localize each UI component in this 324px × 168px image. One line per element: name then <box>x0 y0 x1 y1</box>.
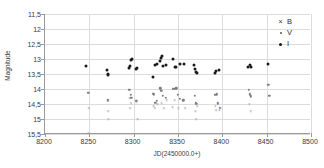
data-point-i <box>136 67 139 70</box>
y-axis-tick <box>41 59 45 60</box>
y-axis-tick-label: 11,5 <box>28 11 41 18</box>
gridline-vertical <box>134 14 135 133</box>
data-point-v <box>214 94 216 96</box>
data-point-b <box>249 109 252 112</box>
plot-area <box>44 14 310 134</box>
x-axis-tick <box>134 133 135 137</box>
data-point-i <box>128 64 131 67</box>
data-point-v <box>156 100 158 102</box>
y-axis-tick <box>41 74 45 75</box>
data-point-v <box>194 94 196 96</box>
legend-marker-dot-small-icon <box>276 28 285 37</box>
legend-label: I <box>285 39 289 48</box>
data-point-v <box>129 94 131 96</box>
x-axis-tick <box>45 133 46 137</box>
x-axis-tick <box>89 133 90 137</box>
legend-marker-dot-icon <box>276 39 285 48</box>
data-point-i <box>218 69 221 72</box>
y-axis-tick <box>41 119 45 120</box>
y-axis-tick-label: 15,5 <box>27 131 41 138</box>
data-point-i <box>248 64 251 67</box>
y-axis-tick-label: 15 <box>33 116 41 123</box>
gridline-vertical <box>89 14 90 133</box>
legend-label: B <box>285 17 292 26</box>
y-axis-tick <box>41 44 45 45</box>
x-axis-tick-label: 8300 <box>125 138 141 145</box>
x-axis-tick <box>311 133 312 137</box>
data-point-b <box>171 106 174 109</box>
data-point-b <box>214 105 217 108</box>
y-axis-tick-label: 14,5 <box>27 101 41 108</box>
data-point-v <box>152 92 154 94</box>
data-point-i <box>247 65 250 68</box>
data-point-b <box>165 99 168 102</box>
data-point-b <box>135 100 138 103</box>
y-axis-tick-label: 14 <box>33 86 41 93</box>
data-point-v <box>107 99 109 101</box>
x-axis-tick-label: 8500 <box>302 138 318 145</box>
data-point-i <box>127 67 130 70</box>
data-point-v <box>249 93 251 95</box>
data-point-v <box>216 93 218 95</box>
data-point-i <box>194 67 197 70</box>
data-point-v <box>182 99 184 101</box>
gridline-vertical <box>267 14 268 133</box>
data-point-i <box>161 64 164 67</box>
data-point-v <box>218 106 220 108</box>
x-axis-tick-label: 8400 <box>214 138 230 145</box>
data-point-i <box>249 66 252 69</box>
x-axis-tick <box>222 133 223 137</box>
gridline-vertical <box>178 14 179 133</box>
legend-label: V <box>285 28 292 37</box>
data-point-i <box>155 63 158 66</box>
x-axis-title: JD(2450000.0+) <box>44 150 310 157</box>
scatter-chart: Magnitude 11,51212,51313,51414,51515,5 8… <box>0 0 324 168</box>
x-axis-tick-label: 8450 <box>258 138 274 145</box>
x-axis-tick-label: 8250 <box>81 138 97 145</box>
x-axis-tick <box>178 133 179 137</box>
data-point-i <box>105 68 108 71</box>
legend-marker-x-icon: × <box>276 17 285 26</box>
y-axis-tick <box>41 104 45 105</box>
y-axis-tick-label: 13,5 <box>27 71 41 78</box>
data-point-i <box>154 64 157 67</box>
data-point-i <box>152 76 155 79</box>
data-point-v <box>153 94 155 96</box>
y-axis-tick <box>41 29 45 30</box>
data-point-b <box>215 109 218 112</box>
data-point-v <box>162 94 164 96</box>
y-axis-tick <box>41 14 45 15</box>
data-point-i <box>165 64 168 67</box>
legend-item-b: ×B <box>276 16 316 27</box>
y-axis-tick-label: 12 <box>33 26 41 33</box>
legend-item-i: I <box>276 38 316 49</box>
data-point-i <box>195 70 198 73</box>
data-point-i <box>173 65 176 68</box>
data-point-i <box>85 64 88 67</box>
data-point-b <box>106 99 109 102</box>
x-axis-tick <box>267 133 268 137</box>
data-point-b <box>218 109 221 112</box>
data-point-v <box>130 97 132 99</box>
data-point-i <box>182 63 185 66</box>
data-point-b <box>162 106 165 109</box>
data-point-b <box>153 106 156 109</box>
legend-item-v: V <box>276 27 316 38</box>
data-point-b <box>128 97 131 100</box>
x-axis-tick-label: 8350 <box>169 138 185 145</box>
data-point-b <box>173 99 176 102</box>
y-axis-tick <box>41 89 45 90</box>
data-point-v <box>164 97 166 99</box>
data-point-b <box>184 106 187 109</box>
x-axis-tick-label: 8200 <box>36 138 52 145</box>
data-point-v <box>135 100 137 102</box>
data-point-v <box>250 95 252 97</box>
data-point-i <box>192 64 195 67</box>
data-point-b <box>194 109 197 112</box>
data-point-i <box>135 67 138 70</box>
gridline-vertical <box>222 14 223 133</box>
data-point-v <box>268 94 270 96</box>
data-point-b <box>129 106 132 109</box>
chart-legend: ×BVI <box>276 16 316 49</box>
data-point-i <box>215 70 218 73</box>
